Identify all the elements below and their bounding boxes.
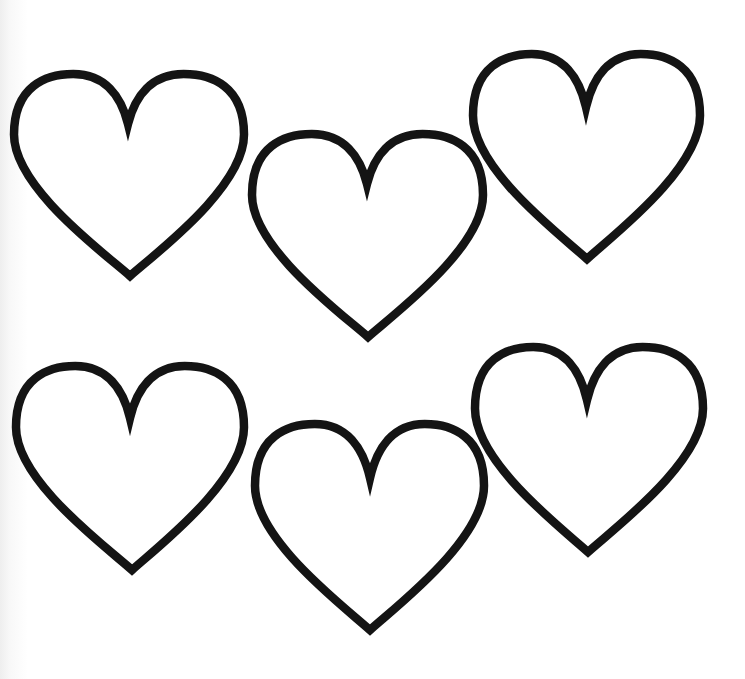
hearts-canvas [0,0,745,679]
heart-outline-top-left [14,74,244,276]
heart-outline-top-middle [252,134,483,337]
heart-outline-top-right [473,54,700,259]
heart-outline-bottom-middle [255,424,484,630]
heart-outline-bottom-right [475,347,703,552]
heart-outline-bottom-left [16,366,244,570]
coloring-page [0,0,745,679]
